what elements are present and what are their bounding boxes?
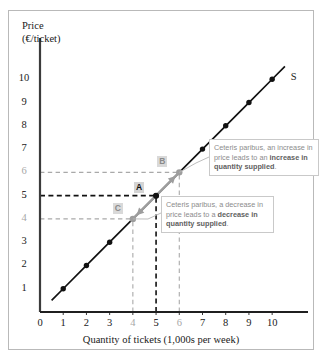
y-tick-label-4: 4 bbox=[16, 212, 32, 223]
y-axis-title: Price(€/ticket) bbox=[22, 20, 60, 45]
x-tick-label-8: 8 bbox=[218, 317, 234, 328]
callout-increase: Ceteris paribus, an increase in price le… bbox=[209, 139, 319, 176]
x-tick-label-3: 3 bbox=[102, 317, 118, 328]
supply-curve-label: S bbox=[291, 71, 297, 82]
curve-marker bbox=[246, 100, 251, 105]
curve-marker bbox=[61, 286, 66, 291]
curve-marker bbox=[107, 239, 112, 244]
point-label-C: C bbox=[113, 203, 123, 214]
point-label-B: B bbox=[157, 156, 167, 167]
y-tick-label-7: 7 bbox=[16, 142, 32, 153]
y-tick-label-2: 2 bbox=[16, 258, 32, 269]
x-tick-label-0: 0 bbox=[32, 317, 48, 328]
callout-decrease: Ceteris paribus, a decrease in price lea… bbox=[161, 196, 274, 233]
curve-marker bbox=[223, 123, 228, 128]
x-tick-label-7: 7 bbox=[195, 317, 211, 328]
y-tick-label-8: 8 bbox=[16, 119, 32, 130]
x-tick-label-6: 6 bbox=[171, 317, 187, 328]
y-tick-label-9: 9 bbox=[16, 96, 32, 107]
leader-line-increase bbox=[179, 157, 209, 172]
x-axis-title: Quantity of tickets (1,000s per week) bbox=[0, 334, 322, 347]
curve-marker bbox=[84, 263, 89, 268]
y-tick-label-3: 3 bbox=[16, 235, 32, 246]
curve-marker bbox=[269, 77, 274, 82]
y-axis-title-line-1: Price bbox=[22, 20, 60, 33]
y-axis-title-line-2: (€/ticket) bbox=[22, 33, 60, 46]
callout-decrease-tail: . bbox=[226, 219, 228, 228]
x-tick-label-4: 4 bbox=[125, 317, 141, 328]
chart-canvas bbox=[0, 0, 322, 360]
x-tick-label-2: 2 bbox=[78, 317, 94, 328]
point-label-A: A bbox=[134, 182, 144, 193]
callout-increase-tail: . bbox=[274, 162, 276, 171]
y-tick-label-1: 1 bbox=[16, 282, 32, 293]
y-tick-label-5: 5 bbox=[16, 189, 32, 200]
x-tick-label-9: 9 bbox=[241, 317, 257, 328]
y-tick-label-10: 10 bbox=[16, 72, 32, 83]
y-tick-label-6: 6 bbox=[16, 165, 32, 176]
arrow-shaft-up bbox=[156, 172, 179, 195]
x-tick-label-10: 10 bbox=[264, 317, 280, 328]
data-point-A bbox=[153, 193, 159, 199]
arrow-shaft-down bbox=[133, 196, 156, 219]
supply-curve-figure: Price(€/ticket) Quantity of tickets (1,0… bbox=[0, 0, 322, 360]
curve-marker bbox=[200, 146, 205, 151]
x-tick-label-1: 1 bbox=[55, 317, 71, 328]
x-tick-label-5: 5 bbox=[148, 317, 164, 328]
